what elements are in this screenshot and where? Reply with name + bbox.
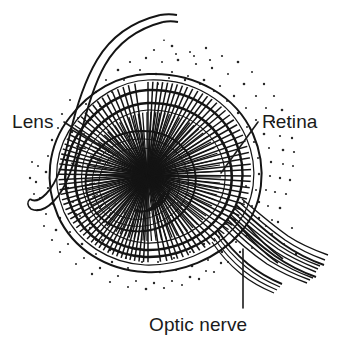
label-lens: Lens: [12, 111, 54, 132]
label-optic-nerve: Optic nerve: [149, 314, 247, 335]
eye-diagram-svg: Lens Retina Optic nerve: [0, 0, 353, 340]
eye-diagram-figure: Lens Retina Optic nerve: [0, 0, 353, 340]
optic-nerve-bundle: [212, 199, 328, 293]
label-retina: Retina: [262, 111, 318, 132]
